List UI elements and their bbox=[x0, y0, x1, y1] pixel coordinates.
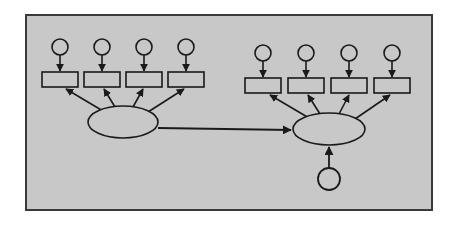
schematic-diagram bbox=[0, 0, 460, 229]
left-circle-1 bbox=[52, 39, 68, 55]
left-circle-3 bbox=[136, 39, 152, 55]
diagram-panel bbox=[26, 15, 432, 210]
left-rect-2 bbox=[84, 72, 120, 87]
right-rect-3 bbox=[331, 78, 367, 93]
left-hub-ellipse bbox=[88, 106, 158, 138]
left-circle-4 bbox=[178, 39, 194, 55]
right-circle-3 bbox=[341, 45, 357, 61]
diagram-canvas bbox=[0, 0, 460, 229]
right-rect-1 bbox=[245, 78, 281, 93]
right-rect-4 bbox=[374, 78, 410, 93]
right-circle-2 bbox=[298, 45, 314, 61]
right-circle-1 bbox=[255, 45, 271, 61]
left-rect-4 bbox=[168, 72, 204, 87]
right-source-circle bbox=[318, 168, 340, 190]
left-circle-2 bbox=[94, 39, 110, 55]
left-rect-1 bbox=[42, 72, 78, 87]
left-rect-3 bbox=[126, 72, 162, 87]
right-circle-4 bbox=[384, 45, 400, 61]
right-rect-2 bbox=[288, 78, 324, 93]
right-hub-ellipse bbox=[293, 113, 365, 145]
